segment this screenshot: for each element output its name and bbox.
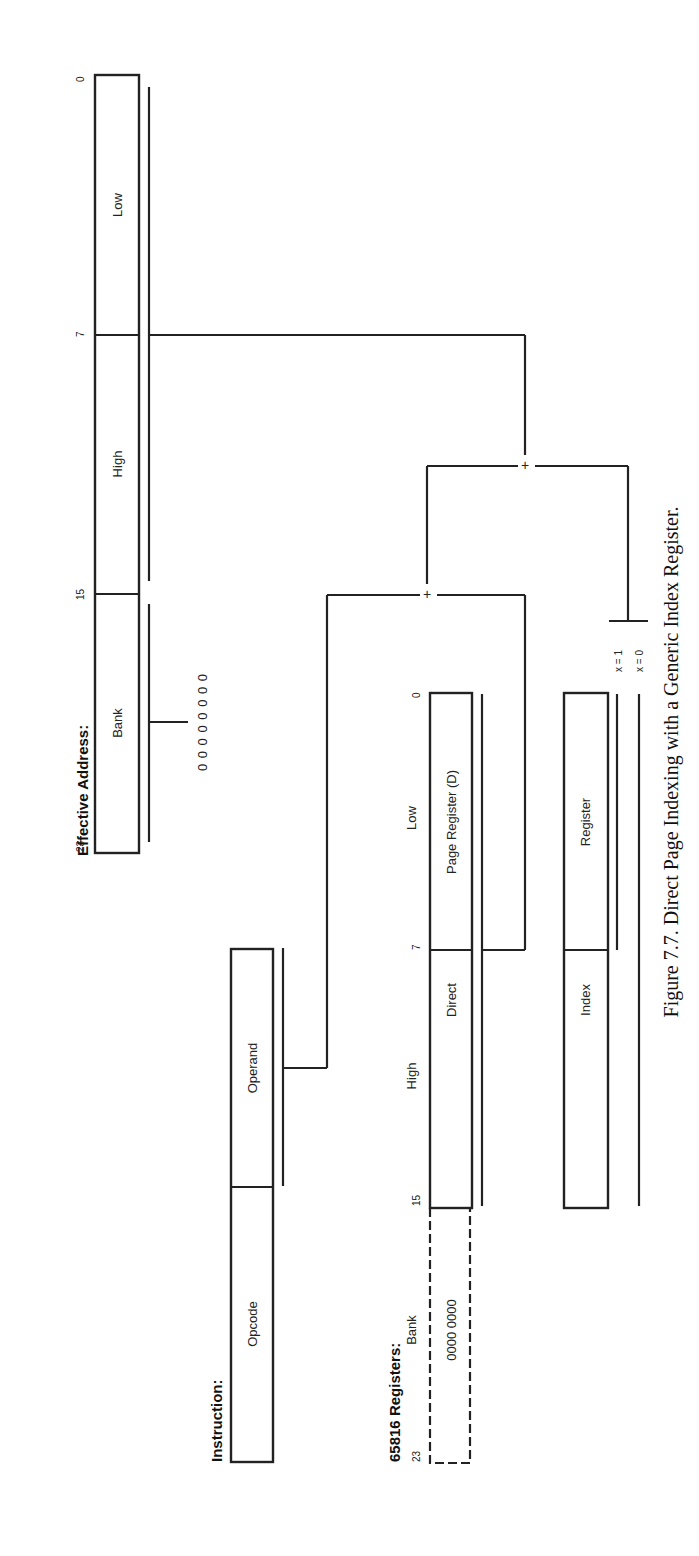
direct-page-indexing-diagram: Effective Address: 23 15 7 0 Bank High L… bbox=[0, 0, 699, 1556]
reg-column-bank: Bank bbox=[404, 1315, 419, 1345]
ea-bit-7: 7 bbox=[75, 331, 86, 337]
effective-address-group: Effective Address: 23 15 7 0 Bank High L… bbox=[74, 75, 210, 856]
figure-caption: Figure 7.7. Direct Page Indexing with a … bbox=[660, 507, 683, 1018]
reg-bit-23: 23 bbox=[411, 1450, 422, 1462]
registers-heading: 65816 Registers: bbox=[386, 1343, 403, 1462]
direct-page-label-1: Direct bbox=[444, 983, 459, 1017]
ea-bit-15: 15 bbox=[75, 588, 86, 600]
effective-address-heading: Effective Address: bbox=[74, 725, 91, 856]
ea-field-bank: Bank bbox=[110, 708, 125, 738]
registers-group: 65816 Registers: Bank High Low 23 15 7 0… bbox=[386, 650, 645, 1463]
direct-page-bank-value: 0000 0000 bbox=[444, 1299, 459, 1360]
ea-bit-23: 23 bbox=[75, 840, 86, 852]
reg-bit-7: 7 bbox=[411, 944, 422, 950]
instruction-field-operand: Operand bbox=[245, 1043, 260, 1094]
instruction-heading: Instruction: bbox=[208, 1380, 225, 1463]
adder-plus-bottom: + bbox=[423, 586, 431, 602]
mode-label-x1: x = 1 bbox=[613, 650, 624, 672]
adder-plus-top: + bbox=[521, 457, 529, 473]
ea-bank-zeros: 0 0 0 0 0 0 0 0 bbox=[195, 673, 210, 771]
reg-column-low: Low bbox=[404, 805, 419, 829]
instruction-box bbox=[231, 949, 273, 1462]
reg-bit-0: 0 bbox=[411, 692, 422, 698]
index-register-label-2: Register bbox=[578, 797, 593, 846]
instruction-field-opcode: Opcode bbox=[245, 1301, 260, 1347]
ea-field-low: Low bbox=[110, 192, 125, 216]
ea-field-high: High bbox=[110, 451, 125, 478]
instruction-group: Instruction: Opcode Operand bbox=[208, 948, 283, 1462]
mode-label-x0: x = 0 bbox=[634, 650, 645, 672]
reg-bit-15: 15 bbox=[411, 1194, 422, 1206]
index-register-label-1: Index bbox=[578, 984, 593, 1016]
direct-page-label-2: Page Register (D) bbox=[444, 770, 459, 874]
ea-bit-0: 0 bbox=[75, 76, 86, 82]
reg-column-high: High bbox=[404, 1063, 419, 1090]
